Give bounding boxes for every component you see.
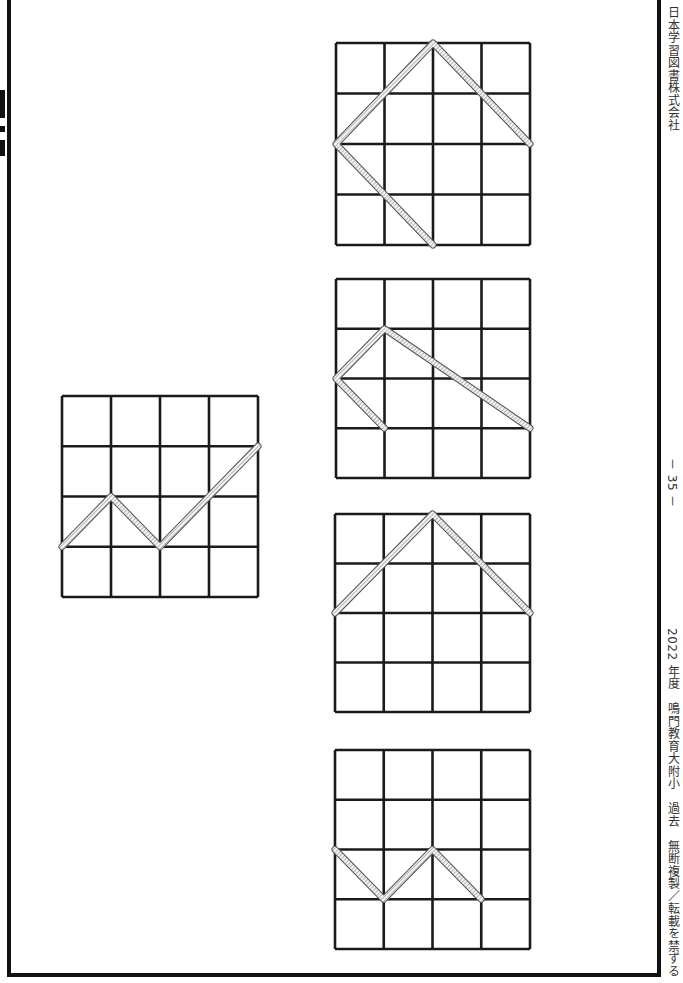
example-grid <box>62 396 258 597</box>
string-path <box>335 850 481 900</box>
answer-grid-3[interactable] <box>335 514 530 712</box>
answer-grid-2[interactable] <box>336 279 530 478</box>
answer-grid-1[interactable] <box>336 43 530 245</box>
page-number: － 35 － <box>664 458 681 508</box>
answer-grid-4[interactable] <box>335 750 530 949</box>
edge-title-mark <box>0 90 6 165</box>
publisher-label: 日本学習図書株式会社 <box>664 6 681 131</box>
copyright-footer: 2022 年度 鳴門教育大附小 過去 無断複製／転載を禁ずる <box>664 628 681 977</box>
